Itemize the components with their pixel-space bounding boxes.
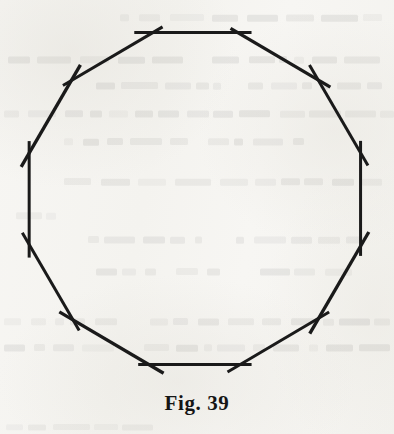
polygon-edge-group <box>21 27 369 373</box>
dodecagon-figure <box>0 0 394 434</box>
polygon-edge <box>22 233 79 331</box>
figure-page: Fig. 39 <box>0 0 394 434</box>
polygon-edge <box>63 27 163 86</box>
polygon-edge <box>231 28 331 87</box>
figure-caption: Fig. 39 <box>0 391 394 416</box>
